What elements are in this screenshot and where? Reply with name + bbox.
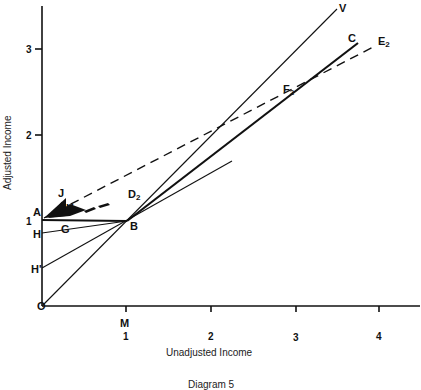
label-d2: D2 (128, 188, 141, 202)
y-tick-label-1: 1 (26, 216, 32, 227)
label-g: G (61, 223, 70, 235)
label-k: K (66, 202, 74, 214)
label-j: J (58, 187, 64, 199)
label-c: C (348, 32, 356, 44)
diagram-canvas: O A B C G H H' J K M V D2 E2 F2 3 2 1 1 … (0, 0, 421, 390)
label-e2: E2 (378, 35, 390, 49)
x-tick-label-3: 3 (293, 332, 299, 343)
label-m: M (120, 317, 129, 329)
y-tick-label-3: 3 (26, 44, 32, 55)
label-b: B (130, 220, 138, 232)
line-ab (42, 220, 127, 221)
label-h: H (33, 228, 41, 240)
label-origin: O (37, 300, 46, 312)
line-ov (42, 9, 337, 306)
x-tick-label-4: 4 (376, 331, 382, 342)
x-axis-title: Unadjusted Income (166, 347, 253, 358)
label-v: V (339, 2, 347, 14)
diagram-caption: Diagram 5 (188, 379, 235, 390)
y-tick-label-2: 2 (26, 130, 32, 141)
label-f2: F2 (283, 83, 295, 97)
line-bc (127, 43, 358, 221)
y-axis-title: Adjusted Income (2, 115, 13, 190)
x-tick-label-2: 2 (208, 331, 214, 342)
label-h-prime: H' (31, 263, 42, 275)
label-a: A (33, 206, 41, 218)
x-tick-label-1: 1 (123, 331, 129, 342)
line-ae2-dashed (44, 46, 375, 218)
